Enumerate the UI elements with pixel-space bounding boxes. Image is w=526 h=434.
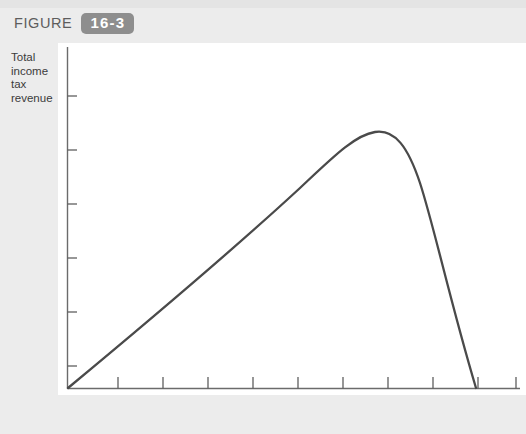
figure-page: FIGURE 16-3 Total income tax revenue [0,0,526,434]
y-axis-ticks [68,96,78,366]
x-axis-ticks [118,377,516,389]
laffer-curve-line [68,132,476,388]
laffer-curve-plot [0,43,526,395]
figure-label: FIGURE [14,15,72,31]
page-top-edge [0,0,526,8]
chart-container: Total income tax revenue [0,43,526,395]
figure-header: FIGURE 16-3 [14,13,134,34]
figure-number-badge: 16-3 [81,13,134,34]
